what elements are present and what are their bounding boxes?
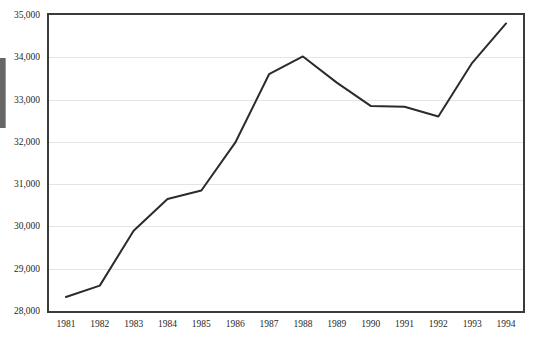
chart-title-clipped <box>0 0 533 7</box>
y-axis-tick-label: 32,000 <box>0 137 40 147</box>
x-axis-tick-label: 1994 <box>484 318 528 330</box>
chart-plot-area <box>47 13 525 313</box>
y-axis-tick-label: 34,000 <box>0 52 40 62</box>
y-axis-tick-label: 28,000 <box>0 306 40 316</box>
y-axis-tick-label: 29,000 <box>0 264 40 274</box>
y-axis-tick-label: 31,000 <box>0 179 40 189</box>
data-line-series <box>49 15 523 311</box>
x-axis-labels: 1981198219831984198519861987198819891990… <box>47 318 525 334</box>
y-axis-tick-label: 33,000 <box>0 95 40 105</box>
y-axis-labels: 35,00034,00033,00032,00031,00030,00029,0… <box>0 13 44 313</box>
y-axis-tick-label: 30,000 <box>0 221 40 231</box>
y-axis-tick-label: 35,000 <box>0 10 40 20</box>
